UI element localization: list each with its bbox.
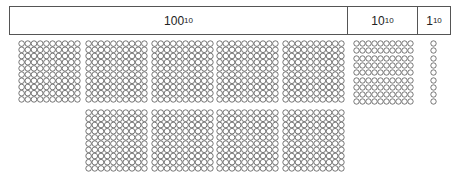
ten-rod [353,47,414,54]
hundred-block [85,40,148,103]
ones-column-label: 110 [418,7,450,34]
ten-rod [353,62,414,69]
unit-cube [430,62,437,69]
unit-cube [430,55,437,62]
unit-cube [430,91,437,98]
hundred-block [282,109,345,172]
hundred-block [85,109,148,172]
ten-rod [353,98,414,105]
ten-rod [353,84,414,91]
ten-rod [353,40,414,47]
place-value-header: 10010 1010 110 [9,6,451,35]
hundred-block [282,40,345,103]
hundred-block [151,40,214,103]
hundreds-column-label: 10010 [10,7,348,34]
unit-cube [430,98,437,105]
ones-label: 1 [426,14,433,28]
unit-cube [430,40,437,47]
ten-rod [353,55,414,62]
ten-rod [353,77,414,84]
tens-base-subscript: 10 [385,16,394,25]
hundred-block [18,40,81,103]
unit-cube [430,47,437,54]
tens-column-label: 1010 [348,7,418,34]
unit-cube [430,77,437,84]
unit-cube [430,69,437,76]
ten-rod [353,91,414,98]
unit-cube [430,84,437,91]
hundred-block [216,109,279,172]
ones-base-subscript: 10 [433,16,442,25]
ten-rod [353,69,414,76]
hundred-block [151,109,214,172]
hundreds-base-subscript: 10 [184,16,193,25]
tens-label: 10 [371,14,384,28]
hundreds-label: 100 [164,14,184,28]
hundred-block [216,40,279,103]
